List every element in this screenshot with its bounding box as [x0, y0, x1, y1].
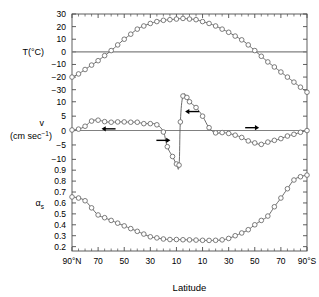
- velocity-marker: [226, 131, 231, 136]
- temperature-marker: [70, 75, 75, 80]
- velocity-marker: [109, 120, 114, 125]
- x-tick-label: 90°S: [298, 256, 317, 266]
- temperature-marker: [155, 19, 160, 24]
- albedo-marker: [285, 186, 290, 191]
- albedo-marker: [220, 238, 225, 243]
- temperature-marker: [207, 21, 212, 26]
- temperature-marker: [246, 43, 251, 48]
- temperature-marker: [122, 37, 127, 42]
- velocity-marker: [70, 128, 75, 133]
- temperature-marker: [181, 16, 186, 21]
- temperature-marker: [76, 72, 81, 77]
- albedo-series: [70, 173, 310, 243]
- velocity-marker: [115, 120, 120, 125]
- velocity-marker: [89, 119, 94, 124]
- albedo-axis-tick-label: 0.2: [54, 242, 66, 252]
- albedo-marker: [109, 218, 114, 223]
- velocity-marker: [285, 134, 290, 139]
- temperature-marker: [220, 27, 225, 32]
- temperature-axis-tick-label: −30: [52, 85, 67, 95]
- temperature-marker: [89, 63, 94, 68]
- velocity-marker: [76, 127, 81, 132]
- velocity-marker: [279, 136, 284, 141]
- albedo-axis-tick-label: 0.5: [54, 209, 66, 219]
- velocity-line: [72, 94, 307, 170]
- velocity-axis-tick-label: 5: [61, 111, 66, 121]
- temperature-marker: [102, 53, 107, 58]
- temperature-marker: [194, 17, 199, 22]
- axes-box: [72, 14, 307, 251]
- velocity-axis-tick-label: −10: [52, 154, 67, 164]
- velocity-marker: [252, 141, 257, 146]
- albedo-marker: [266, 214, 271, 219]
- temperature-marker: [187, 17, 192, 22]
- x-tick-label: 50: [250, 256, 260, 266]
- temperature-marker: [279, 70, 284, 75]
- albedo-marker: [187, 238, 192, 243]
- velocity-marker: [178, 120, 183, 125]
- albedo-marker: [70, 195, 75, 200]
- figure-container: 90°N705030101030507090°SLatitude3020100−…: [0, 0, 319, 297]
- albedo-line: [72, 175, 307, 240]
- velocity-marker: [292, 132, 297, 137]
- arrow-southern-head: [255, 125, 259, 130]
- albedo-marker: [122, 224, 127, 229]
- temperature-marker: [115, 43, 120, 48]
- temperature-axis-label: T(°C): [22, 47, 44, 57]
- temperature-marker: [266, 60, 271, 65]
- velocity-marker: [239, 135, 244, 140]
- albedo-marker: [292, 178, 297, 183]
- x-tick-label: 30: [224, 256, 234, 266]
- temperature-marker: [233, 34, 238, 39]
- temperature-axis-tick-label: 0: [61, 47, 66, 57]
- albedo-marker: [259, 218, 264, 223]
- temperature-marker: [135, 27, 140, 32]
- temperature-marker: [292, 80, 297, 85]
- albedo-marker: [76, 196, 81, 201]
- velocity-axis-tick-label: 10: [57, 97, 67, 107]
- albedo-marker: [213, 238, 218, 243]
- temperature-marker: [252, 48, 257, 53]
- velocity-axis-label: v(cm sec−1): [10, 118, 52, 141]
- velocity-marker: [298, 130, 303, 135]
- temperature-marker: [148, 21, 153, 26]
- temperature-marker: [285, 75, 290, 80]
- velocity-marker: [96, 118, 101, 123]
- velocity-marker: [246, 139, 251, 144]
- albedo-marker: [148, 235, 153, 240]
- latitude-profiles-chart: 90°N705030101030507090°SLatitude3020100−…: [0, 0, 319, 297]
- svg-text:T(°C): T(°C): [22, 47, 44, 57]
- albedo-marker: [168, 237, 173, 242]
- x-axis-title: Latitude: [173, 282, 207, 293]
- velocity-axis-tick-label: −5: [56, 140, 66, 150]
- albedo-marker: [272, 204, 277, 209]
- albedo-marker: [200, 238, 205, 243]
- albedo-marker: [181, 237, 186, 242]
- temperature-marker: [161, 18, 166, 23]
- temperature-marker: [128, 32, 133, 37]
- velocity-marker: [213, 131, 218, 136]
- albedo-marker: [246, 227, 251, 232]
- albedo-marker: [174, 237, 179, 242]
- temperature-axis-tick-label: −10: [52, 59, 67, 69]
- temperature-marker: [226, 30, 231, 35]
- x-tick-label: 10: [198, 256, 208, 266]
- temperature-marker: [213, 24, 218, 29]
- albedo-marker: [102, 215, 107, 220]
- albedo-axis-tick-label: 0.4: [54, 220, 66, 230]
- velocity-axis-label-line2: (cm sec−1): [10, 130, 52, 141]
- albedo-axis-tick-label: 0.7: [54, 187, 66, 197]
- velocity-marker: [220, 130, 225, 135]
- albedo-marker: [83, 198, 88, 203]
- albedo-marker: [161, 237, 166, 242]
- temperature-marker: [200, 19, 205, 24]
- albedo-axis-tick-label: 0.8: [54, 176, 66, 186]
- temperature-marker: [96, 58, 101, 63]
- albedo-marker: [128, 226, 133, 231]
- albedo-marker: [239, 231, 244, 236]
- albedo-axis-tick-label: 0.9: [54, 165, 66, 175]
- temperature-marker: [298, 85, 303, 90]
- velocity-marker: [305, 128, 310, 133]
- albedo-marker: [115, 221, 120, 226]
- temperature-marker: [305, 90, 310, 95]
